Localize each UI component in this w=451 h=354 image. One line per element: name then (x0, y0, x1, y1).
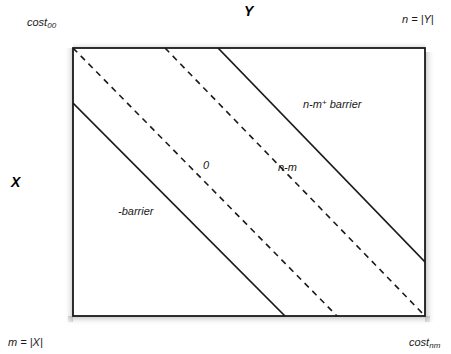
box-shadow-left (64, 48, 73, 322)
diagram-lines (0, 0, 451, 354)
annotation-n-minus-m-plus-barrier-prefix: n-m (303, 98, 322, 110)
figure-canvas: Y X cost00 n = |Y| m = |X| costnm (0, 0, 451, 354)
annotation-n-minus-m: n-m (278, 162, 297, 173)
annotation-n-minus-m-plus-barrier: n-m+ barrier (303, 99, 361, 110)
box-shadow-bottom (68, 316, 430, 326)
annotation-zero: 0 (203, 160, 209, 171)
box-shadow-top (73, 41, 425, 48)
box-shadow-right (425, 52, 435, 322)
annotation-n-minus-m-plus-barrier-suffix: barrier (327, 98, 362, 110)
annotation-barrier: -barrier (118, 206, 153, 217)
box-interior (73, 48, 425, 316)
